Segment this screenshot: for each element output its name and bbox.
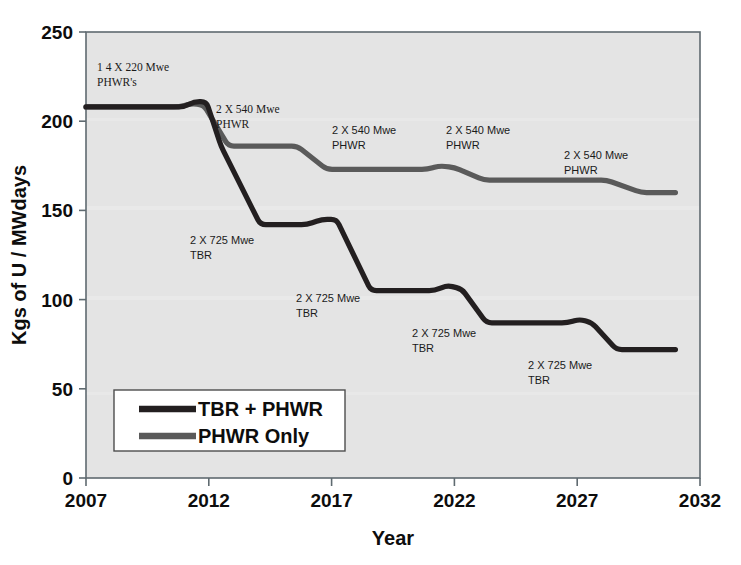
y-tick-label: 150 (41, 200, 73, 221)
legend-label-1: TBR + PHWR (198, 398, 324, 420)
annotation-line-2: TBR (190, 249, 212, 261)
legend[interactable]: TBR + PHWRPHWR Only (114, 390, 345, 451)
y-tick-label: 200 (41, 111, 73, 132)
x-tick-label: 2012 (188, 490, 230, 511)
annotation-line-1: 2 X 725 Mwe (190, 234, 254, 246)
y-axis: 050100150200250 (41, 22, 86, 489)
annotation-line-1: 2 X 540 Mwe (216, 103, 280, 115)
annotation-line-2: TBR (296, 307, 318, 319)
x-tick-label: 2007 (65, 490, 107, 511)
annotation-line-2: TBR (412, 342, 434, 354)
annotation-line-1: 2 X 725 Mwe (412, 327, 476, 339)
annotation-line-2: PHWR (332, 139, 366, 151)
annotation-line-1: 2 X 725 Mwe (528, 359, 592, 371)
x-tick-label: 2017 (310, 490, 352, 511)
y-axis-title: Kgs of U / MWdays (8, 165, 30, 345)
annotation-line-1: 2 X 540 Mwe (446, 124, 510, 136)
annotation-line-2: TBR (528, 374, 550, 386)
annotation-line-1: 2 X 725 Mwe (296, 292, 360, 304)
y-tick-label: 250 (41, 22, 73, 43)
y-tick-label: 100 (41, 290, 73, 311)
annotation-line-1: 2 X 540 Mwe (564, 149, 628, 161)
chart-svg: 050100150200250 200720122017202220272032… (0, 0, 741, 565)
x-tick-label: 2032 (679, 490, 721, 511)
annotation-line-2: PHWR (216, 118, 250, 130)
annotation-line-2: PHWR (564, 164, 598, 176)
y-tick-label: 0 (62, 468, 73, 489)
x-axis: 200720122017202220272032 (65, 478, 721, 511)
annotation-line-2: PHWR's (97, 76, 137, 88)
annotation-line-1: 1 4 X 220 Mwe (97, 61, 169, 73)
annotation-line-1: 2 X 540 Mwe (332, 124, 396, 136)
annotation-line-2: PHWR (446, 139, 480, 151)
x-tick-label: 2022 (433, 490, 475, 511)
chart-figure: 050100150200250 200720122017202220272032… (0, 0, 741, 565)
legend-label-2: PHWR Only (198, 425, 310, 447)
y-tick-label: 50 (52, 379, 73, 400)
x-axis-title: Year (372, 527, 414, 549)
x-tick-label: 2027 (556, 490, 598, 511)
